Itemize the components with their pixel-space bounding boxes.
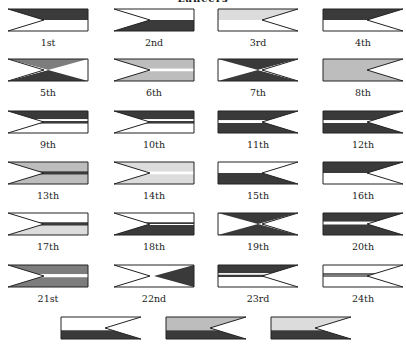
pennant-label: 23rd: [217, 293, 299, 304]
pennant-flag-icon: [217, 8, 299, 32]
pennant-2nd: 2nd: [113, 8, 205, 58]
diagram-title: Lancers: [0, 0, 406, 4]
pennant-flag-icon: [217, 212, 299, 236]
pennant-label: 7th: [217, 87, 299, 98]
pennant-flag-icon: [7, 58, 89, 82]
pennant-flag-icon: [165, 316, 247, 340]
pennant-15th: 15th: [217, 161, 309, 211]
pennant-6th: 6th: [113, 58, 205, 108]
pennant-22nd: 22nd: [113, 264, 205, 314]
pennant-flag-icon: [113, 110, 195, 134]
pennant-label: 20th: [322, 241, 404, 252]
pennant-label: 16th: [322, 190, 404, 201]
pennant-label: 24th: [322, 293, 404, 304]
pennant-21st: 21st: [7, 264, 99, 314]
pennant-flag-icon: [217, 264, 299, 288]
pennant-9th: 9th: [7, 110, 99, 160]
pennant-flag-icon: [113, 161, 195, 185]
pennant-partial-24: [60, 316, 152, 344]
pennant-1st: 1st: [7, 8, 99, 58]
pennant-label: 14th: [113, 190, 195, 201]
pennant-label: 12th: [322, 139, 404, 150]
pennant-8th: 8th: [322, 58, 406, 108]
pennant-flag-icon: [217, 161, 299, 185]
pennant-flag-icon: [7, 264, 89, 288]
pennant-flag-icon: [217, 58, 299, 82]
pennant-17th: 17th: [7, 212, 99, 262]
pennant-label: 21st: [7, 293, 89, 304]
pennant-label: 11th: [217, 139, 299, 150]
pennant-flag-icon: [7, 212, 89, 236]
pennant-flag-icon: [322, 8, 404, 32]
pennant-16th: 16th: [322, 161, 406, 211]
pennant-label: 8th: [322, 87, 404, 98]
pennant-20th: 20th: [322, 212, 406, 262]
pennant-partial-25: [165, 316, 257, 344]
pennant-5th: 5th: [7, 58, 99, 108]
pennant-12th: 12th: [322, 110, 406, 160]
pennant-flag-icon: [322, 110, 404, 134]
pennant-flag-icon: [60, 316, 142, 340]
pennant-label: 18th: [113, 241, 195, 252]
pennant-19th: 19th: [217, 212, 309, 262]
pennant-flag-icon: [7, 8, 89, 32]
pennant-flag-icon: [322, 212, 404, 236]
pennant-13th: 13th: [7, 161, 99, 211]
pennant-label: 5th: [7, 87, 89, 98]
pennant-18th: 18th: [113, 212, 205, 262]
pennant-label: 19th: [217, 241, 299, 252]
pennant-flag-icon: [217, 110, 299, 134]
pennant-label: 2nd: [113, 37, 195, 48]
pennant-3rd: 3rd: [217, 8, 309, 58]
pennant-label: 6th: [113, 87, 195, 98]
pennant-24th: 24th: [322, 264, 406, 314]
pennant-flag-icon: [113, 8, 195, 32]
pennant-flag-icon: [7, 161, 89, 185]
pennant-label: 3rd: [217, 37, 299, 48]
pennant-14th: 14th: [113, 161, 205, 211]
pennant-4th: 4th: [322, 8, 406, 58]
pennant-23rd: 23rd: [217, 264, 309, 314]
pennant-11th: 11th: [217, 110, 309, 160]
pennant-label: 4th: [322, 37, 404, 48]
pennant-label: 1st: [7, 37, 89, 48]
pennant-flag-icon: [113, 58, 195, 82]
pennant-7th: 7th: [217, 58, 309, 108]
pennant-flag-icon: [270, 316, 352, 340]
pennant-label: 22nd: [113, 293, 195, 304]
pennant-label: 9th: [7, 139, 89, 150]
pennant-flag-icon: [322, 58, 404, 82]
pennant-label: 15th: [217, 190, 299, 201]
pennant-flag-icon: [322, 161, 404, 185]
pennant-label: 17th: [7, 241, 89, 252]
pennant-flag-icon: [322, 264, 404, 288]
pennant-label: 13th: [7, 190, 89, 201]
pennant-flag-icon: [113, 264, 195, 288]
pennant-partial-26: [270, 316, 362, 344]
pennant-label: 10th: [113, 139, 195, 150]
pennant-flag-icon: [7, 110, 89, 134]
pennant-flag-icon: [113, 212, 195, 236]
pennant-10th: 10th: [113, 110, 205, 160]
